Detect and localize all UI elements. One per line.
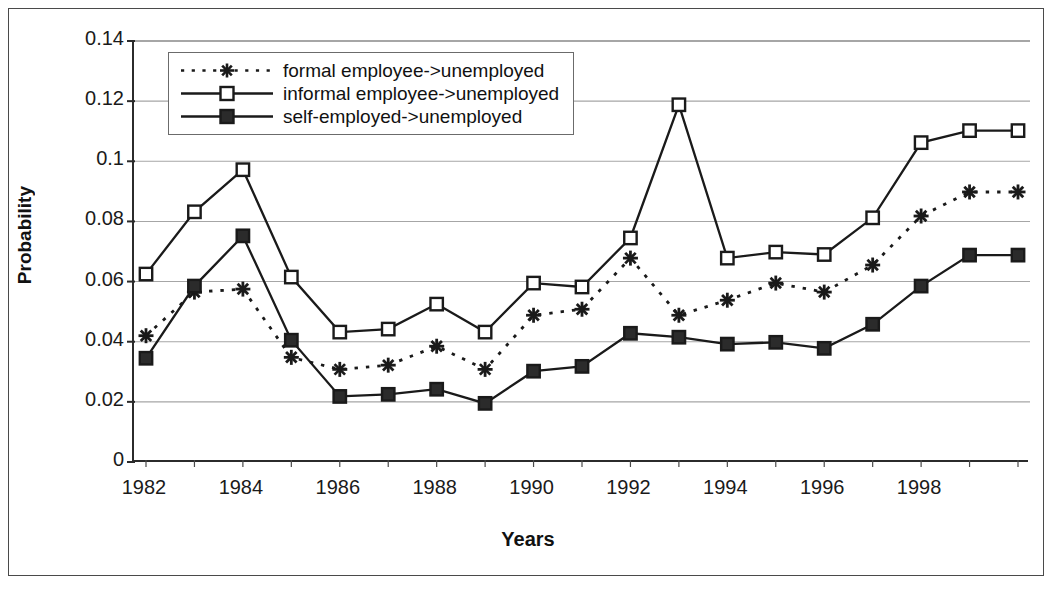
legend-swatch-informal-open-square (179, 82, 275, 105)
legend-label-self-employed: self-employed->unemployed (275, 106, 522, 128)
x-tick-label: 1992 (606, 476, 651, 499)
legend-swatch-formal-dotted-asterisk (179, 59, 275, 82)
x-tick-label: 1988 (412, 476, 457, 499)
x-tick-label: 1996 (800, 476, 845, 499)
legend-item-informal: informal employee->unemployed (179, 82, 559, 105)
chart-canvas: 00.020.040.060.080.10.120.14 19821984198… (0, 0, 1056, 592)
chart-page: 00.020.040.060.080.10.120.14 19821984198… (0, 0, 1056, 592)
y-axis-title: Probability (14, 186, 36, 284)
legend: formal employee->unemployed informal emp… (168, 52, 574, 135)
x-tick-label: 1998 (897, 476, 942, 499)
legend-swatch-self-employed-filled-square (179, 105, 275, 128)
legend-label-formal: formal employee->unemployed (275, 60, 544, 82)
legend-item-formal: formal employee->unemployed (179, 59, 559, 82)
x-tick-label: 1986 (316, 476, 361, 499)
legend-item-self-employed: self-employed->unemployed (179, 105, 559, 128)
legend-label-informal: informal employee->unemployed (275, 83, 559, 105)
x-tick-label: 1994 (703, 476, 748, 499)
x-tick-label: 1984 (219, 476, 264, 499)
x-tick-label: 1982 (122, 476, 167, 499)
x-axis-title: Years (0, 528, 1056, 551)
x-tick-label: 1990 (509, 476, 554, 499)
